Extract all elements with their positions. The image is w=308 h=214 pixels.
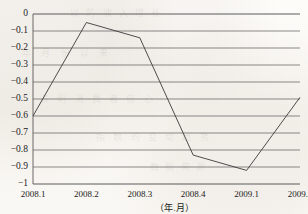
x-axis-title: （年.月） [115,204,235,213]
y-tick-label: −0.7 [0,128,28,138]
y-tick-label: −0.6 [0,111,28,121]
x-tick-label: 2008.2 [63,190,109,199]
chart-canvas [0,0,308,214]
data-series-line [33,23,300,171]
y-tick-label: −0.8 [0,145,28,155]
y-tick-label: −0.4 [0,77,28,87]
y-tick-label: −0.9 [0,162,28,172]
y-tick-label: −0.3 [0,60,28,70]
x-tick-label: 2009.1 [224,190,270,199]
x-tick-label: 2009.2 [277,190,308,199]
x-tick-label: 2008.3 [117,190,163,199]
line-chart: 0−0.1−0.2−0.3−0.4−0.5−0.6−0.7−0.8−0.9−1 … [0,0,308,214]
y-tick-label: −0.2 [0,43,28,53]
y-tick-label: 0 [0,9,28,19]
y-tick-label: −0.5 [0,94,28,104]
y-tick-label: −1 [0,179,28,189]
gridlines-group [33,14,300,184]
chart-page: 以 的 收 入 增 长 年 月 份 以 来 表 明 消 费 者 信 心 指 数 … [0,0,308,214]
y-tick-label: −0.1 [0,26,28,36]
x-tick-label: 2008.1 [10,190,56,199]
x-tick-label: 2008.4 [170,190,216,199]
